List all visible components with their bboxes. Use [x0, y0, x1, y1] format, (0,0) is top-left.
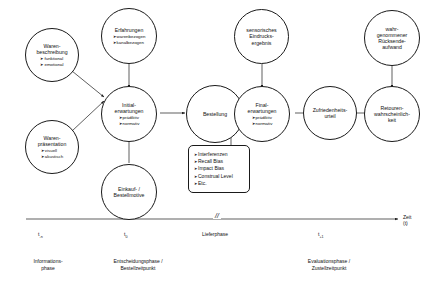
- axis-title-line2: (t): [403, 220, 411, 226]
- axis-break-mark: //: [213, 212, 221, 219]
- bias-label: Impact Bias: [198, 165, 224, 171]
- node-title: aufwand: [382, 44, 402, 50]
- bullet-item: ➤kanalbezogen: [113, 40, 146, 45]
- tick-sub: 0: [125, 235, 127, 239]
- node-retourenwahrscheinlichkeit[interactable]: Retouren- wahrscheinlich- keit: [364, 86, 420, 142]
- node-sensorisches-eindrucksergebnis[interactable]: sensorisches Eindrucks- ergebnis: [234, 9, 289, 64]
- node-warenpraesentation[interactable]: Waren- präsentation ➤visuell ➤akustisch: [25, 120, 79, 174]
- tick-label-t-minus-n: t-n: [38, 231, 43, 239]
- phase-line1: Evaluationsphase /: [283, 258, 375, 265]
- node-bullets: ➤visuell ➤akustisch: [41, 148, 63, 159]
- phase-label-entscheidungsphase: Entscheidungsphase / Bestellzeitpunkt: [92, 258, 184, 271]
- bullet-label: akustisch: [45, 154, 63, 159]
- bias-item: ➤Recall Bias: [194, 158, 244, 165]
- tick-label-t-zero: t0: [124, 231, 127, 239]
- bullet-label: funktional: [44, 56, 63, 61]
- node-finalerwartungen[interactable]: Final- erwartungen ➤prädiktiv ➤normativ: [234, 86, 290, 142]
- bias-item: ➤Interferenzen: [194, 151, 244, 158]
- node-initialerwartungen[interactable]: Initial- erwartungen ➤prädiktiv ➤normati…: [101, 86, 157, 142]
- node-title: keit: [388, 117, 396, 123]
- bullet-label: prädiktiv: [256, 115, 272, 120]
- bullet-label: prädiktiv: [123, 115, 139, 120]
- node-title: ergebnis: [252, 40, 272, 46]
- bias-label: Recall Bias: [198, 158, 223, 164]
- node-bullets: ➤funktional ➤emotional: [40, 56, 63, 67]
- node-title: präsentation: [38, 141, 67, 147]
- node-bullets: ➤prädiktiv ➤normativ: [119, 115, 140, 126]
- bullet-label: normativ: [256, 121, 273, 126]
- edge-warenbeschreibung-initial: [72, 71, 104, 97]
- node-title: erwartungen: [115, 108, 144, 114]
- edge-warenpraesentation-initial: [72, 101, 104, 131]
- diagram-canvas: Waren- beschreibung ➤funktional ➤emotion…: [0, 0, 428, 288]
- bullet-label: visuell: [45, 148, 57, 153]
- bullet-item: ➤normativ: [119, 121, 140, 126]
- bias-factors-box[interactable]: ➤Interferenzen ➤Recall Bias ➤Impact Bias…: [188, 145, 250, 193]
- bias-item: ➤Etc.: [194, 180, 244, 187]
- phase-line1: Informations-: [18, 258, 78, 265]
- bias-label: Etc.: [198, 180, 207, 186]
- node-einkaufmotive[interactable]: Einkauf- / Bestellmotive: [101, 164, 157, 220]
- phase-line2: Zustellzeitpunkt: [283, 265, 375, 272]
- bias-label: Interferenzen: [198, 151, 227, 157]
- bias-item: ➤Construal Level: [194, 173, 244, 180]
- bullet-item: ➤emotional: [40, 62, 63, 67]
- node-title: beschreibung: [36, 49, 67, 55]
- node-warenbeschreibung[interactable]: Waren- beschreibung ➤funktional ➤emotion…: [25, 28, 79, 82]
- phase-line1: Entscheidungsphase /: [92, 258, 184, 265]
- tick-sub: +1: [319, 235, 323, 239]
- node-bullets: ➤prädiktiv ➤normativ: [252, 115, 273, 126]
- bullet-label: warenbezogen: [117, 34, 146, 39]
- bullet-label: normativ: [123, 121, 140, 126]
- phase-line2: Bestellzeitpunkt: [92, 265, 184, 272]
- node-title: Bestellmotive: [114, 192, 145, 198]
- phase-label-informationsphase: Informations- phase: [18, 258, 78, 271]
- node-erfahrungen[interactable]: Erfahrungen ➤warenbezogen ➤kanalbezogen: [101, 8, 157, 64]
- node-title: erwartungen: [248, 108, 277, 114]
- axis-title: Zeit (t): [403, 214, 411, 227]
- phase-label-evaluationsphase: Evaluationsphase / Zustellzeitpunkt: [283, 258, 375, 271]
- bullet-item: ➤normativ: [252, 121, 273, 126]
- node-bullets: ➤warenbezogen ➤kanalbezogen: [113, 34, 146, 45]
- tick-label-t-plus-1: t+1: [318, 231, 324, 239]
- bias-label: Construal Level: [198, 173, 233, 179]
- phase-line2: phase: [18, 265, 78, 272]
- node-title: Bestellung: [203, 111, 227, 117]
- node-zufriedenheitsurteil[interactable]: Zufriedenheits- urteil: [303, 86, 357, 140]
- tick-sub: -n: [39, 235, 42, 239]
- lieferphase-label: Lieferphase: [202, 231, 228, 237]
- bullet-item: ➤akustisch: [41, 154, 63, 159]
- bias-item: ➤Impact Bias: [194, 165, 244, 172]
- bullet-label: emotional: [44, 62, 63, 67]
- node-wahrgenommener-ruecksendeaufwand[interactable]: wahr- genommener Rücksende- aufwand: [364, 10, 420, 66]
- node-title: Erfahrungen: [115, 27, 144, 33]
- bullet-label: kanalbezogen: [117, 40, 144, 45]
- node-title: urteil: [324, 113, 335, 119]
